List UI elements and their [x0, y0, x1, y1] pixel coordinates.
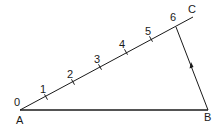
- division-label-5: 5: [145, 25, 151, 37]
- point-label-a: A: [16, 114, 24, 126]
- division-label-2: 2: [67, 68, 73, 80]
- point-label-c: C: [188, 3, 196, 15]
- division-label-4: 4: [119, 38, 125, 50]
- line-6-b: [176, 27, 208, 110]
- division-label-6: 6: [170, 11, 176, 23]
- division-label-0: 0: [14, 96, 20, 108]
- diagram-canvas: 0 1 2 3 4 5 6 A B C: [0, 0, 219, 130]
- division-label-3: 3: [94, 53, 100, 65]
- construction-diagram: 0 1 2 3 4 5 6 A B C: [0, 0, 219, 130]
- point-label-b: B: [204, 111, 211, 123]
- division-label-1: 1: [40, 83, 46, 95]
